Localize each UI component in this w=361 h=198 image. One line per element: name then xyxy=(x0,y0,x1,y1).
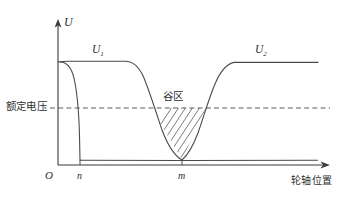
hatch-line xyxy=(174,98,220,168)
origin-label: O xyxy=(45,170,53,181)
curve-u2-label-subscript: 2 xyxy=(263,50,267,58)
curve-u1-label-subscript: 1 xyxy=(100,50,104,58)
x-axis-label: 轮轴位置 xyxy=(291,176,332,186)
hatch-line xyxy=(181,98,227,168)
y-axis-label: U xyxy=(64,16,73,28)
curve-u2 xyxy=(182,62,318,160)
curve-u1-label: U1 xyxy=(92,44,104,58)
voltage-position-diagram: U U1 U2 额定电压 谷区 O n m 轮轴位置 xyxy=(0,0,361,198)
x-tick-label-n: n xyxy=(77,171,82,181)
valley-zone-label: 谷区 xyxy=(163,91,183,102)
curve-drop-at-n xyxy=(60,62,80,160)
x-tick-label-m: m xyxy=(178,171,185,181)
rated-voltage-label: 额定电压 xyxy=(6,101,47,112)
curve-u2-label: U2 xyxy=(255,44,267,58)
curve-u1 xyxy=(58,61,182,160)
